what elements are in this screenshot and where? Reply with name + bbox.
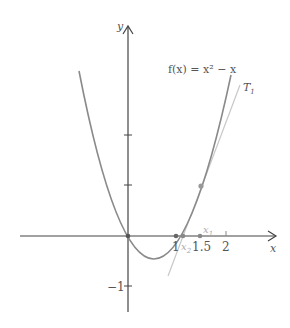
x-tick-label-1-5: 1.5: [192, 241, 211, 253]
root-point-1: [174, 234, 179, 239]
tangent-label: T1: [243, 82, 255, 96]
x2-point: [181, 234, 186, 239]
x1-label-sub: 1: [209, 230, 213, 238]
x-tick-label-1: 1: [172, 241, 180, 253]
function-label: f(x) = x² − x: [168, 64, 236, 75]
y-tick-label-minus-1: −1: [107, 281, 125, 293]
x2-label-sub: 2: [187, 247, 191, 255]
y-axis-label: y: [117, 21, 123, 32]
x-tick-label-2: 2: [222, 241, 230, 253]
x-axis-label: x: [270, 243, 276, 254]
tangency-point: [198, 183, 203, 188]
tangent-label-sub: 1: [250, 88, 254, 96]
newton-method-diagram: [0, 0, 290, 328]
x1-point: [198, 234, 203, 239]
x2-label: x2: [181, 242, 191, 255]
origin-point: [126, 234, 131, 239]
x1-label: x1: [203, 225, 213, 238]
